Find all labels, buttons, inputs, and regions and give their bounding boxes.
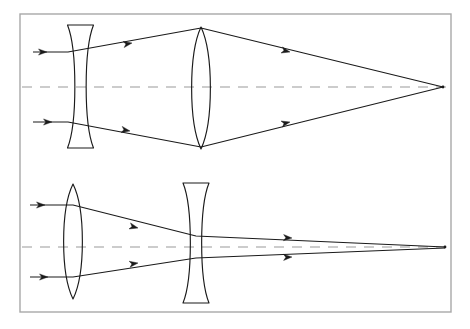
bottom-convex-lens[interactable]	[64, 184, 83, 299]
bottom-lower-ray	[30, 248, 445, 277]
top-convex-lens[interactable]	[192, 27, 211, 149]
bottom-upper-ray-arrow-2	[129, 223, 139, 231]
top-diagram-focal-point	[442, 86, 445, 89]
bottom-lower-ray-arrow-2-head	[129, 260, 138, 267]
top-lower-ray	[33, 87, 443, 147]
top-upper-ray	[33, 28, 443, 87]
bottom-lower-ray-arrow-3	[283, 254, 292, 261]
bottom-upper-ray-arrow-2-head	[129, 223, 139, 231]
optics-ray-diagram	[0, 0, 470, 329]
bottom-lower-ray-arrow-2	[129, 260, 138, 267]
bottom-upper-ray	[30, 205, 445, 247]
diagram-canvas	[0, 0, 470, 329]
outer-border	[20, 14, 451, 312]
top-diagram	[22, 25, 449, 149]
bottom-lower-ray-arrow-3-head	[283, 254, 292, 261]
bottom-concave-lens[interactable]	[183, 183, 209, 303]
bottom-diagram	[22, 183, 449, 303]
bottom-diagram-focal-point	[444, 246, 447, 249]
